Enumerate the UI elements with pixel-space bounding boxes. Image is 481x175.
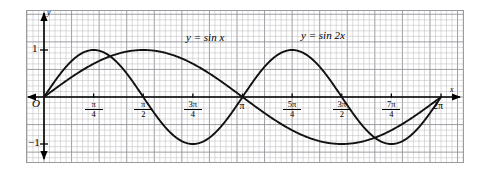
x-tick-label-1: π2 <box>134 100 152 118</box>
x-tick-label-4: 5π4 <box>283 100 301 118</box>
fraction-numerator: π <box>85 100 103 109</box>
x-tick-label-3: π <box>240 101 245 111</box>
fraction-numerator: π <box>134 100 152 109</box>
x-tick-label-0: π4 <box>85 100 103 118</box>
curve-label-sin-x: y = sin x <box>186 32 224 43</box>
fraction-denominator: 2 <box>333 109 351 119</box>
x-tick-label-2: 3π4 <box>184 100 202 118</box>
page-background <box>0 0 481 175</box>
origin-label: O <box>32 98 40 109</box>
x-tick-label-7: 2π <box>433 101 443 111</box>
sine-graph-svg <box>0 0 481 175</box>
curve-label-sin-2x: y = sin 2x <box>301 30 345 41</box>
fraction-numerator: 3π <box>333 100 351 109</box>
x-tick-label-5: 3π2 <box>333 100 351 118</box>
fraction-denominator: 4 <box>283 109 301 119</box>
fraction-numerator: 7π <box>382 100 400 109</box>
x-tick-label-6: 7π4 <box>382 100 400 118</box>
fraction-numerator: 5π <box>283 100 301 109</box>
fraction-numerator: 3π <box>184 100 202 109</box>
fraction-denominator: 2 <box>134 109 152 119</box>
figure-container: yxO1−1π4π23π4π5π43π27π42πy = sin xy = si… <box>0 0 481 175</box>
fraction-denominator: 4 <box>85 109 103 119</box>
y-tick-label-1: 1 <box>32 43 38 54</box>
y-tick-label-minus-1: −1 <box>28 137 40 148</box>
y-axis-name: y <box>47 9 51 17</box>
fraction-denominator: 4 <box>382 109 400 119</box>
x-axis-name: x <box>450 86 454 94</box>
fraction-denominator: 4 <box>184 109 202 119</box>
